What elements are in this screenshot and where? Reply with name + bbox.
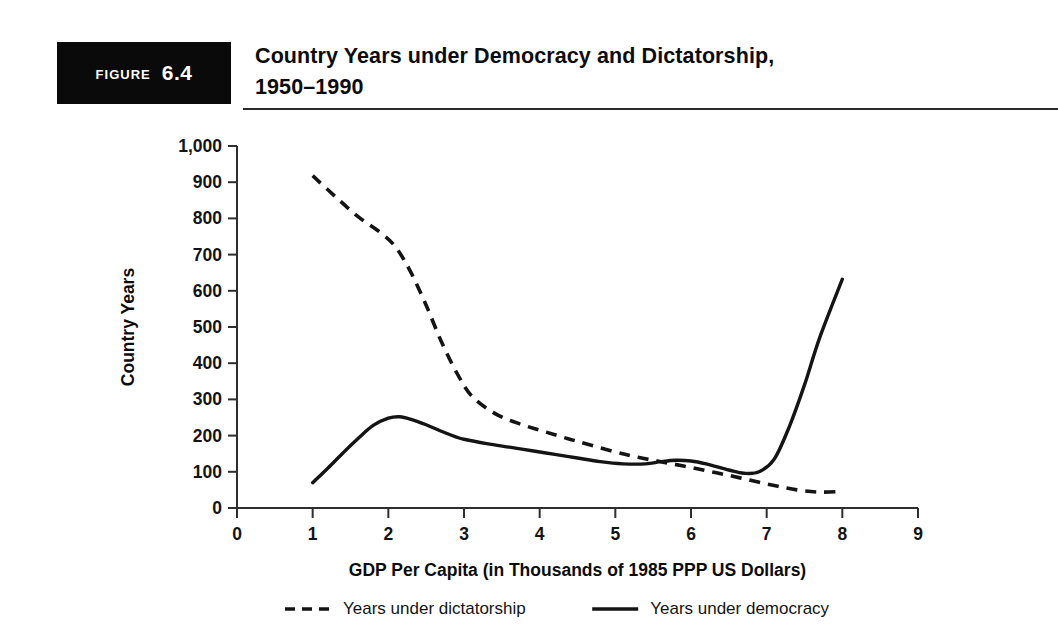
y-tick-label: 100 (193, 462, 222, 482)
x-tick-label: 6 (686, 524, 696, 544)
x-tick-label: 0 (232, 524, 242, 544)
figure-title-line-1: Country Years under Democracy and Dictat… (255, 41, 995, 72)
series-years-under-democracy (313, 279, 843, 482)
y-tick-label: 500 (193, 317, 222, 337)
x-tick-label: 7 (762, 524, 772, 544)
y-axis-ticks: 01002003004005006007008009001,000 (178, 136, 237, 518)
x-axis-title: GDP Per Capita (in Thousands of 1985 PPP… (349, 560, 806, 580)
figure-label-word: Figure (96, 62, 151, 84)
y-axis-title: Country Years (118, 268, 138, 387)
x-tick-label: 4 (535, 524, 545, 544)
line-chart: Country Years 01002003004005006007008009… (0, 118, 1058, 632)
x-tick-label: 1 (308, 524, 318, 544)
x-tick-label: 2 (383, 524, 393, 544)
x-tick-label: 8 (837, 524, 847, 544)
legend-label: Years under democracy (650, 599, 829, 618)
series-years-under-dictatorship (313, 176, 843, 492)
chart-legend: Years under dictatorshipYears under demo… (285, 599, 830, 618)
figure-title-line-2: 1950–1990 (255, 72, 995, 103)
header-divider (243, 108, 1058, 110)
y-tick-label: 300 (193, 389, 222, 409)
chart-region: Country Years 01002003004005006007008009… (0, 118, 1058, 632)
y-tick-label: 1,000 (178, 136, 222, 156)
y-tick-label: 600 (193, 281, 222, 301)
legend-label: Years under dictatorship (343, 599, 526, 618)
figure-label-number: 6.4 (162, 61, 193, 85)
figure-number-badge: Figure 6.4 (57, 42, 231, 104)
y-tick-label: 900 (193, 172, 222, 192)
x-tick-label: 3 (459, 524, 469, 544)
x-tick-label: 9 (913, 524, 923, 544)
y-tick-label: 700 (193, 245, 222, 265)
y-tick-label: 800 (193, 208, 222, 228)
y-tick-label: 200 (193, 426, 222, 446)
x-tick-label: 5 (610, 524, 620, 544)
y-tick-label: 400 (193, 353, 222, 373)
figure-title: Country Years under Democracy and Dictat… (255, 41, 995, 103)
figure-header: Figure 6.4 Country Years under Democracy… (57, 42, 1001, 110)
y-tick-label: 0 (212, 498, 222, 518)
x-axis-ticks: 0123456789 (232, 508, 923, 544)
